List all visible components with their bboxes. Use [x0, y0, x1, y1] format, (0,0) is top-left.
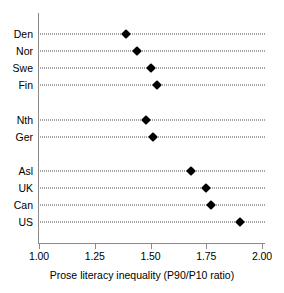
- data-point-swe[interactable]: [146, 63, 156, 73]
- row-gridline: [40, 34, 265, 35]
- category-label-ger: Ger: [0, 132, 33, 143]
- category-label-den: Den: [0, 29, 33, 40]
- data-point-asl[interactable]: [186, 166, 196, 176]
- data-point-ger[interactable]: [148, 132, 158, 142]
- data-point-nth[interactable]: [141, 115, 151, 125]
- row-gridline: [40, 222, 265, 223]
- data-point-den[interactable]: [121, 29, 131, 39]
- x-tick-mark: [95, 244, 96, 249]
- row-gridline: [40, 120, 265, 121]
- x-tick-label: 1.75: [196, 250, 216, 262]
- category-label-nth: Nth: [0, 115, 33, 126]
- x-tick-mark: [151, 244, 152, 249]
- x-tick-label: 2.00: [252, 250, 272, 262]
- data-point-fin[interactable]: [152, 80, 162, 90]
- row-gridline: [40, 205, 265, 206]
- category-label-us: US: [0, 217, 33, 228]
- category-label-can: Can: [0, 200, 33, 211]
- x-tick-mark: [39, 244, 40, 249]
- x-tick-mark: [206, 244, 207, 249]
- data-point-can[interactable]: [206, 200, 216, 210]
- x-tick-label: 1.50: [140, 250, 160, 262]
- data-point-us[interactable]: [235, 217, 245, 227]
- row-gridline: [40, 51, 265, 52]
- row-gridline: [40, 171, 265, 172]
- x-tick-label: 1.25: [85, 250, 105, 262]
- row-gridline: [40, 188, 265, 189]
- x-tick-mark: [262, 244, 263, 249]
- data-point-uk[interactable]: [201, 183, 211, 193]
- data-point-nor[interactable]: [132, 46, 142, 56]
- category-label-swe: Swe: [0, 63, 33, 74]
- category-label-uk: UK: [0, 183, 33, 194]
- category-label-nor: Nor: [0, 46, 33, 57]
- x-axis-title: Prose literacy inequality (P90/P10 ratio…: [0, 269, 284, 281]
- x-tick-label: 1.00: [29, 250, 49, 262]
- category-label-fin: Fin: [0, 80, 33, 91]
- dot-plot-chart: DenNorSweFinNthGerAslUKCanUS 1.001.251.5…: [0, 0, 284, 293]
- category-label-asl: Asl: [0, 166, 33, 177]
- y-axis-line: [38, 13, 39, 244]
